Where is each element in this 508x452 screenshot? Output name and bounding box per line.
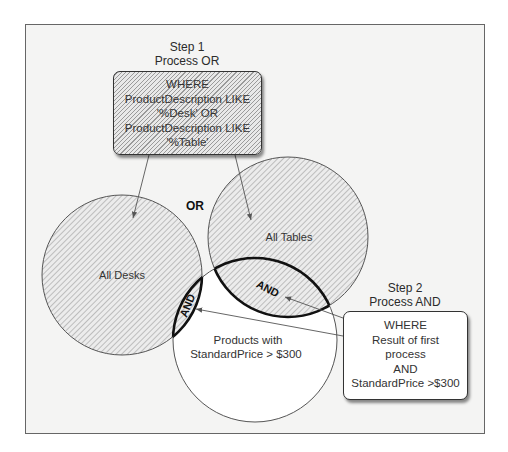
step2-line-0: WHERE <box>344 318 467 333</box>
step1-subtitle: Process OR <box>127 54 247 68</box>
step2-line-3: AND <box>344 362 467 377</box>
step2-title: Step 2 <box>350 281 460 295</box>
step1-line-4: '%Table' <box>114 135 261 150</box>
tables-label: All Tables <box>266 231 313 243</box>
step1-line-2: '%Desk' OR <box>114 106 261 121</box>
price-label-line2: StandardPrice > $300 <box>190 348 302 360</box>
step1-line-3: ProductDescription LIKE <box>114 121 261 136</box>
step2-where-box: WHERE Result of first process AND Standa… <box>343 311 468 400</box>
or-label: OR <box>186 199 204 213</box>
step1-title: Step 1 <box>127 40 247 54</box>
step2-heading: Step 2 Process AND <box>350 281 460 309</box>
step2-subtitle: Process AND <box>350 295 460 309</box>
step1-line-0: WHERE <box>114 77 261 92</box>
price-label-line1: Products with <box>213 334 282 346</box>
step1-line-1: ProductDescription LIKE <box>114 92 261 107</box>
desks-label: All Desks <box>99 269 145 281</box>
step1-heading: Step 1 Process OR <box>127 40 247 68</box>
step1-where-box: WHERE ProductDescription LIKE '%Desk' OR… <box>113 71 262 155</box>
step2-line-4: StandardPrice >$300 <box>344 376 467 391</box>
step2-line-1: Result of first <box>344 333 467 348</box>
step2-line-2: process <box>344 347 467 362</box>
